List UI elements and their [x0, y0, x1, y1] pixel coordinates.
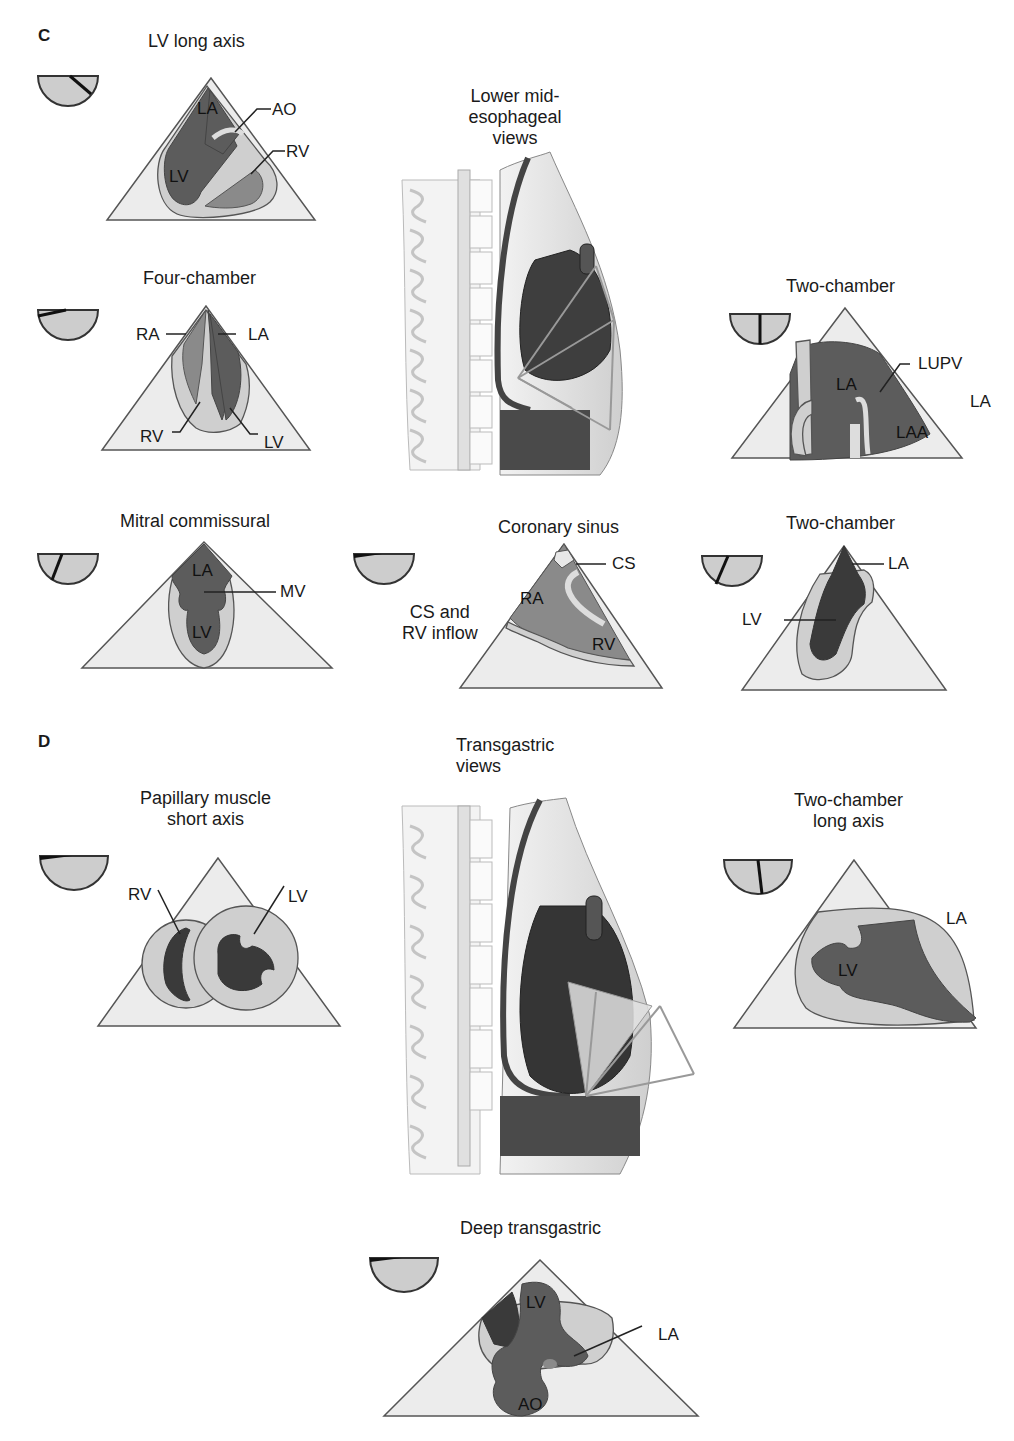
label-lv: LV	[742, 610, 762, 630]
label-laa: LAA	[896, 423, 929, 442]
group-title-mid-esophageal: Lower mid- esophageal views	[450, 86, 580, 149]
echo-sector-deep-transgastric: LV AO	[382, 1256, 702, 1436]
omniplane-indicator-icon	[352, 552, 416, 588]
echo-sector-two-chamber: LA LAA	[730, 304, 970, 464]
label-lupv: LUPV	[918, 354, 962, 374]
view-title-coronary-sinus: Coronary sinus	[498, 517, 619, 538]
group-title-line: views	[456, 756, 554, 777]
section-letter-c: C	[38, 26, 50, 46]
label-la: LA	[836, 375, 857, 394]
label-mv: MV	[280, 582, 306, 602]
label-ra: RA	[520, 589, 544, 608]
echo-sector-four-chamber	[100, 304, 315, 454]
label-la: LA	[248, 325, 269, 345]
label-lv: LV	[838, 961, 858, 980]
label-la: LA	[888, 554, 909, 574]
view-title-mitral-commissural: Mitral commissural	[120, 511, 270, 532]
view-title-deep-transgastric: Deep transgastric	[460, 1218, 601, 1239]
title-line: short axis	[140, 809, 271, 830]
label-la-side: LA	[946, 909, 967, 929]
group-title-line: Transgastric	[456, 735, 554, 756]
title-line: long axis	[794, 811, 903, 832]
group-title-line: views	[450, 128, 580, 149]
section-letter-d: D	[38, 732, 50, 752]
label-lv: LV	[264, 433, 284, 453]
view-title-two-chamber: Two-chamber	[786, 276, 895, 297]
title-line: Two-chamber	[794, 790, 903, 811]
label-ao: AO	[518, 1395, 543, 1414]
echo-sector-mitral-commissural: LA LV	[80, 540, 340, 675]
label-la-side: LA	[970, 392, 991, 412]
echo-sector-papillary-muscle-short-axis	[94, 854, 344, 1029]
label-cs: CS	[612, 554, 636, 574]
view-title-four-chamber: Four-chamber	[143, 268, 256, 289]
title-line: Papillary muscle	[140, 788, 271, 809]
label-la: LA	[192, 561, 213, 580]
label-la: LA	[197, 99, 218, 118]
label-ra: RA	[136, 325, 160, 345]
omniplane-indicator-icon	[36, 74, 100, 110]
label-rv: RV	[140, 427, 163, 447]
view-title-papillary-muscle-short-axis: Papillary muscle short axis	[140, 788, 271, 830]
label-rv: RV	[286, 142, 309, 162]
anatomy-illustration-transgastric	[400, 796, 700, 1176]
label-lv: LV	[288, 887, 308, 907]
label-lv: LV	[192, 623, 212, 642]
group-title-line: Lower mid-	[450, 86, 580, 107]
label-lv: LV	[526, 1293, 546, 1312]
echo-sector-two-chamber-2	[740, 544, 950, 694]
omniplane-indicator-icon	[36, 308, 100, 344]
label-rv: RV	[128, 885, 151, 905]
label-ao: AO	[272, 100, 297, 120]
view-title-two-chamber-long-axis: Two-chamber long axis	[794, 790, 903, 832]
view-title-lv-long-axis: LV long axis	[148, 31, 245, 52]
label-rv: RV	[592, 635, 616, 654]
label-la: LA	[658, 1325, 679, 1345]
group-title-transgastric: Transgastric views	[456, 735, 554, 777]
group-title-line: esophageal	[450, 107, 580, 128]
echo-sector-two-chamber-long-axis: LV	[730, 858, 978, 1033]
label-lv: LV	[169, 167, 189, 186]
anatomy-illustration-mid-esophageal	[400, 150, 640, 475]
view-title-two-chamber-2: Two-chamber	[786, 513, 895, 534]
